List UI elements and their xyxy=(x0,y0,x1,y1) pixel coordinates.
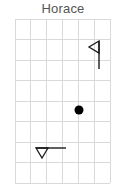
flag-marker-horizontal xyxy=(36,148,66,158)
data-markers xyxy=(36,41,99,158)
point-marker xyxy=(75,106,84,115)
plot-figure xyxy=(0,0,126,195)
figure-canvas: Horace xyxy=(0,0,126,195)
